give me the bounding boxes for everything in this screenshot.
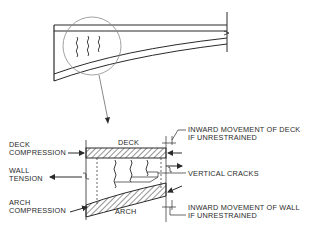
detail-circle xyxy=(63,17,121,75)
wall-tension-label-line2: TENSION xyxy=(9,174,43,183)
crack-line xyxy=(87,36,89,56)
arch-lower-curve xyxy=(54,44,227,81)
deck-slab xyxy=(86,148,166,158)
arch-compression-label-line2: COMPRESSION xyxy=(9,206,66,215)
diagram-canvas: DECK ARCH DECK COMPRESSION WALL TENSION … xyxy=(0,0,311,235)
vertical-cracks-label: VERTICAL CRACKS xyxy=(188,169,259,178)
leader-arrowhead-icon xyxy=(105,117,110,124)
crack-line xyxy=(76,37,78,57)
inward-wall-leader xyxy=(170,207,186,215)
crack-line xyxy=(146,160,148,176)
overview-structure xyxy=(54,12,229,124)
inward-wall-label-line2: IF UNRESTRAINED xyxy=(188,211,257,220)
crack-line xyxy=(98,36,100,52)
arch-right-arrow-icon xyxy=(168,186,182,192)
deck-label: DECK xyxy=(118,138,139,147)
inward-deck-label-line2: IF UNRESTRAINED xyxy=(188,133,257,142)
arch-upper-curve xyxy=(54,38,227,74)
arch-compression-arrow-icon xyxy=(70,207,87,212)
detail-leader-line xyxy=(99,75,108,120)
crack-line xyxy=(114,160,116,188)
crack-line xyxy=(130,160,132,182)
inward-deck-leader xyxy=(172,130,186,140)
wall-break-mark xyxy=(83,173,89,179)
deck-compression-label-line2: COMPRESSION xyxy=(9,148,66,157)
arch-label: ARCH xyxy=(115,207,136,216)
